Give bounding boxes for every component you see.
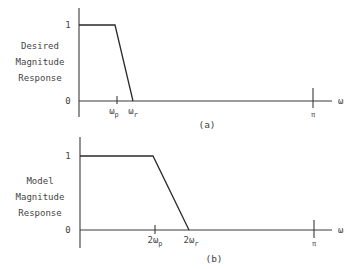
caption-b: (b) (205, 253, 222, 264)
magnitude-curve (80, 156, 189, 230)
tick-label-wr: ωr (128, 106, 138, 119)
figure-b: Model Magnitude Response 1 0 2ωp 2ωr π ω… (16, 137, 344, 264)
y-tick-1: 1 (65, 20, 70, 30)
x-axis-label: ω (338, 96, 344, 106)
ylabel-line-3: Response (18, 208, 61, 218)
tick-label-2wp: 2ωp (147, 235, 162, 248)
ylabel-line-2: Magnitude (16, 192, 65, 202)
magnitude-curve (79, 25, 133, 101)
ylabel-line-1: Desired (21, 41, 59, 51)
y-tick-1: 1 (65, 151, 70, 161)
ylabel-line-3: Response (18, 73, 61, 83)
caption-a: (a) (198, 119, 215, 130)
tick-label-pi: π (311, 111, 316, 119)
y-tick-0: 0 (65, 225, 70, 235)
figure-a: Desired Magnitude Response 1 0 ωp ωr π ω… (16, 8, 344, 130)
tick-label-pi: π (312, 240, 317, 248)
tick-label-wp: ωp (109, 106, 119, 119)
tick-label-2wr: 2ωr (183, 235, 198, 248)
ylabel-line-1: Model (26, 176, 53, 186)
ylabel-line-2: Magnitude (16, 57, 65, 67)
y-tick-0: 0 (65, 96, 70, 106)
x-axis-label: ω (338, 225, 344, 235)
diagram-canvas: Desired Magnitude Response 1 0 ωp ωr π ω… (0, 0, 347, 269)
